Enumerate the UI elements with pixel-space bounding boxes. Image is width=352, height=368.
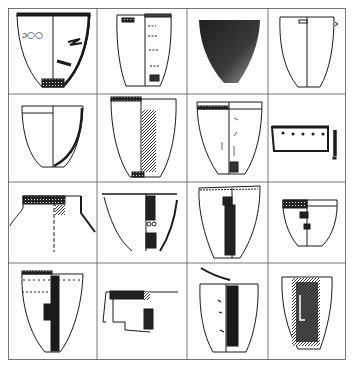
vessel-r2c2 [111, 97, 176, 177]
vessel-r3c2 [102, 194, 177, 251]
vessel-r1c2 [117, 14, 171, 86]
svg-text:ɔ○○: ɔ○○ [22, 30, 43, 40]
vessel-r3c4 [283, 200, 337, 246]
vessel-r3c3 [199, 186, 260, 258]
vessel-r2c1 [22, 106, 83, 167]
vessel-r4c4 [282, 277, 332, 349]
vessel-r1c1: ɔ○○ [17, 13, 90, 87]
vessel-photo-r1c3 [199, 20, 260, 83]
vessel-r4c3 [200, 268, 258, 352]
vessel-r4c1 [22, 271, 83, 352]
plate-svg: ɔ○○ [0, 0, 352, 368]
pottery-plate: ɔ○○ [0, 0, 352, 368]
vessel-r1c4 [280, 17, 338, 87]
vessel-r3c1 [10, 196, 95, 252]
sherd-r2c4 [272, 127, 336, 159]
sherd-r4c2 [103, 291, 178, 332]
vessel-r2c3 [197, 102, 262, 174]
